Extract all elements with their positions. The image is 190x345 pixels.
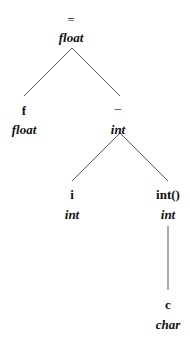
node-type: char [156, 318, 181, 331]
node-type: float [12, 123, 37, 136]
node-type: int [111, 123, 125, 136]
node-label: – [115, 101, 122, 114]
node-label: i [70, 188, 74, 201]
tree-edges [0, 0, 190, 345]
edge-minus-i [72, 133, 120, 181]
edge-minus-cast [120, 133, 168, 181]
node-label: c [165, 298, 171, 311]
node-type: int [161, 208, 175, 221]
edge-assign-minus [72, 48, 120, 96]
node-label: int() [156, 188, 180, 201]
edge-assign-f [24, 48, 72, 96]
node-type: float [59, 31, 84, 44]
node-label: = [67, 13, 74, 26]
node-label: f [22, 104, 26, 117]
node-type: int [65, 208, 79, 221]
